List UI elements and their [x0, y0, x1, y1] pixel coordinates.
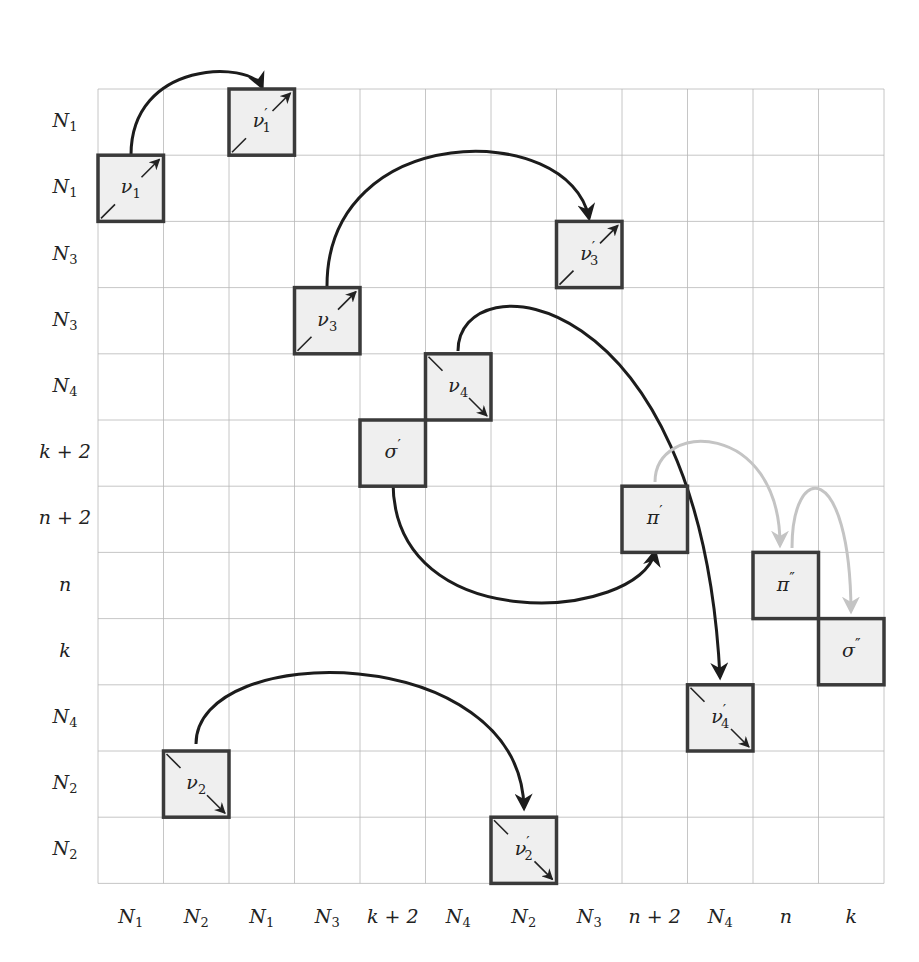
- row-labels: N1N1N3N3N4k + 2n + 2nkN4N2N2: [39, 109, 91, 862]
- column-label: N3: [576, 905, 602, 930]
- arrow-sigmaprime-to-piprime: [393, 482, 655, 603]
- grid-diagram: N1N1N3N3N4k + 2n + 2nkN4N2N2 N1N2N1N3k +…: [0, 0, 919, 962]
- column-label: N3: [314, 905, 340, 930]
- box-sigma2prime: σ″: [819, 619, 885, 685]
- box-pi2prime: π″: [753, 552, 819, 618]
- row-label: N4: [52, 705, 78, 730]
- column-label: n + 2: [629, 905, 681, 927]
- column-label: N4: [707, 905, 733, 930]
- row-label: n + 2: [39, 506, 91, 528]
- row-label: N2: [52, 771, 78, 796]
- row-label: N3: [52, 308, 78, 333]
- box-nu4: ν4: [426, 354, 492, 420]
- box-nu2: ν2: [164, 751, 230, 817]
- column-label: k + 2: [367, 905, 419, 927]
- row-label: N3: [52, 242, 78, 267]
- box-piprime: π′: [622, 486, 688, 552]
- column-label: N1: [117, 905, 143, 930]
- box-sigmaprime: σ′: [360, 420, 426, 486]
- row-label: k + 2: [39, 440, 91, 462]
- column-label: N2: [183, 905, 209, 930]
- column-label: n: [780, 905, 792, 927]
- row-label: k: [59, 639, 71, 661]
- column-label: N2: [510, 905, 536, 930]
- row-label: N1: [52, 109, 78, 134]
- box-nu2prime: ν′2: [491, 817, 557, 883]
- row-label: N1: [52, 175, 78, 200]
- column-labels: N1N2N1N3k + 2N4N2N3n + 2N4nk: [117, 905, 857, 930]
- box-nu4prime: ν′4: [688, 685, 754, 751]
- arrow-nu3-to-nu3prime: [327, 151, 589, 286]
- row-label: N4: [52, 374, 78, 399]
- box-nu3: ν3: [295, 288, 361, 354]
- box-nu1prime: ν′1: [229, 89, 295, 155]
- column-label: k: [845, 905, 857, 927]
- box-nu3prime: ν′3: [557, 221, 623, 287]
- box-nu1: ν1: [98, 155, 164, 221]
- row-label: N2: [52, 837, 78, 862]
- column-label: N4: [445, 905, 471, 930]
- column-label: N1: [248, 905, 274, 930]
- row-label: n: [59, 573, 71, 595]
